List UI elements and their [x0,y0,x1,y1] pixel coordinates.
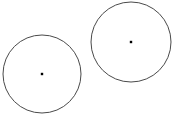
figure-canvas [0,0,179,120]
two-circles-diagram [0,0,179,120]
figure-background [0,0,179,120]
right-circle-center-dot [130,41,132,43]
left-circle-center-dot [41,73,43,75]
